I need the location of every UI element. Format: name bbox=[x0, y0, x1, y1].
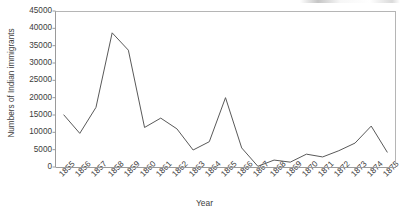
data-series-line bbox=[64, 33, 388, 166]
chart-figure: Numbers of Indian immigrants 05000100001… bbox=[0, 0, 409, 212]
x-axis-title: Year bbox=[0, 198, 409, 208]
plot-area bbox=[0, 0, 409, 212]
x-axis-ticks bbox=[64, 167, 388, 170]
